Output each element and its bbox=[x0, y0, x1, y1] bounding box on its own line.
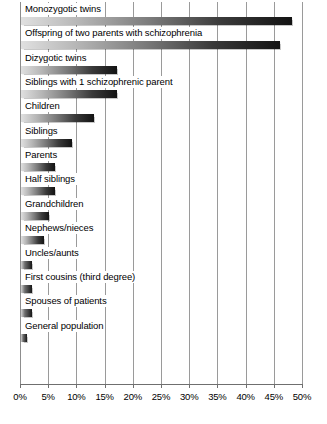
category-label: Spouses of patients bbox=[24, 295, 109, 307]
bar-row: General population bbox=[0, 320, 327, 344]
category-label: Children bbox=[24, 100, 62, 112]
bar bbox=[21, 66, 117, 74]
tick-mark bbox=[246, 384, 247, 388]
bar-row: First cousins (third degree) bbox=[0, 271, 327, 295]
bar-row: Uncles/aunts bbox=[0, 247, 327, 271]
bar bbox=[21, 285, 32, 293]
bar bbox=[21, 261, 32, 269]
bar-row: Spouses of patients bbox=[0, 295, 327, 319]
bar bbox=[21, 90, 117, 98]
tick-mark bbox=[105, 384, 106, 388]
category-label: Grandchildren bbox=[24, 198, 85, 210]
tick-mark bbox=[20, 384, 21, 388]
bar bbox=[21, 236, 44, 244]
bar-chart: Monozygotic twinsOffspring of two parent… bbox=[0, 0, 327, 424]
bar bbox=[21, 187, 55, 195]
bar bbox=[21, 139, 72, 147]
bar-row: Half siblings bbox=[0, 173, 327, 197]
bar-row: Children bbox=[0, 100, 327, 124]
category-label: Siblings bbox=[24, 125, 59, 137]
bar bbox=[21, 334, 27, 342]
tick-mark bbox=[189, 384, 190, 388]
category-label: First cousins (third degree) bbox=[24, 271, 137, 283]
bar-row: Dizygotic twins bbox=[0, 52, 327, 76]
tick-mark bbox=[48, 384, 49, 388]
tick-mark bbox=[161, 384, 162, 388]
tick-mark bbox=[76, 384, 77, 388]
category-label: Uncles/aunts bbox=[24, 247, 81, 259]
tick-mark bbox=[302, 384, 303, 388]
bar bbox=[21, 212, 49, 220]
tick-mark bbox=[133, 384, 134, 388]
category-label: Half siblings bbox=[24, 173, 77, 185]
bar bbox=[21, 163, 55, 171]
bar bbox=[21, 114, 94, 122]
bar-row: Offspring of two parents with schizophre… bbox=[0, 27, 327, 51]
bar-row: Siblings bbox=[0, 125, 327, 149]
tick-mark bbox=[217, 384, 218, 388]
bar bbox=[21, 41, 280, 49]
category-label: Offspring of two parents with schizophre… bbox=[24, 27, 204, 39]
bar-row: Siblings with 1 schizophrenic parent bbox=[0, 76, 327, 100]
tick-label: 50% bbox=[282, 391, 322, 403]
bar-row: Grandchildren bbox=[0, 198, 327, 222]
tick-mark bbox=[274, 384, 275, 388]
bar-row: Nephews/nieces bbox=[0, 222, 327, 246]
category-label: General population bbox=[24, 320, 105, 332]
bar-row: Monozygotic twins bbox=[0, 3, 327, 27]
bar bbox=[21, 17, 292, 25]
bar-row: Parents bbox=[0, 149, 327, 173]
category-label: Dizygotic twins bbox=[24, 52, 88, 64]
category-label: Parents bbox=[24, 149, 59, 161]
category-label: Nephews/nieces bbox=[24, 222, 95, 234]
category-label: Monozygotic twins bbox=[24, 3, 103, 15]
category-label: Siblings with 1 schizophrenic parent bbox=[24, 76, 174, 88]
bar bbox=[21, 309, 32, 317]
